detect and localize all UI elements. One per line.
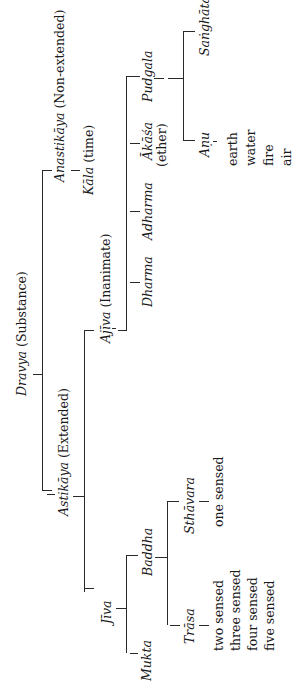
node-baddha: Baddha bbox=[141, 528, 155, 576]
anu-tick bbox=[183, 140, 195, 141]
anu-item-fire: fire bbox=[262, 144, 276, 166]
node-ajiva: Ajīva (Inanimate) bbox=[99, 234, 113, 343]
kala-tick bbox=[71, 170, 80, 171]
dravya-gloss: (Substance) bbox=[14, 271, 29, 351]
astikaya-out-stub bbox=[73, 496, 84, 497]
node-trasa: Trāsa bbox=[183, 608, 197, 644]
dravya-stub bbox=[33, 374, 42, 375]
jiva-tick bbox=[84, 588, 94, 589]
ajiva-tick bbox=[84, 330, 94, 331]
sthavara-tick bbox=[167, 501, 179, 502]
baddha-tick bbox=[126, 555, 138, 556]
anu-item-air: air bbox=[280, 149, 294, 166]
ajiva-gloss: (Inanimate) bbox=[98, 234, 113, 312]
node-pudgala: Pudgala bbox=[141, 51, 155, 102]
anastikaya-gloss: (Non-extended) bbox=[52, 10, 67, 113]
anu-item-water: water bbox=[244, 129, 258, 166]
anu-item-earth: earth bbox=[226, 132, 240, 166]
node-anastikaya: Anastikāya (Non-extended) bbox=[53, 10, 67, 182]
jiva-out-stub bbox=[116, 608, 126, 609]
dharma-tick bbox=[130, 282, 140, 283]
node-akasa-gloss: (ether) bbox=[155, 123, 169, 167]
trasa-item-two-sensed: two sensed bbox=[212, 580, 226, 651]
trasa-item-five-sensed: five sensed bbox=[263, 581, 277, 651]
anu-items-tick bbox=[213, 141, 217, 142]
ajiva-bracket bbox=[126, 76, 127, 331]
jiva-bracket bbox=[126, 555, 127, 653]
sthavara-item-one-sensed: one sensed bbox=[212, 456, 226, 527]
pudgala-out-stub bbox=[154, 78, 164, 79]
pudgala-out-stub-2 bbox=[168, 78, 183, 79]
dravya-term: Dravya bbox=[14, 351, 29, 396]
trasa-item-three-sensed: three sensed bbox=[229, 570, 243, 652]
astikaya-term: Astikāya bbox=[56, 462, 71, 516]
node-mukta: Mukta bbox=[140, 640, 154, 681]
node-dharma: Dharma bbox=[141, 256, 155, 307]
baddha-out-stub bbox=[155, 557, 167, 558]
node-sanghata: Saṅghāta bbox=[198, 0, 212, 56]
anastikaya-tick bbox=[42, 170, 52, 171]
sanghata-tick bbox=[183, 31, 195, 32]
trasa-items-tick bbox=[199, 625, 209, 626]
mukta-tick bbox=[130, 653, 138, 654]
node-anu: Aṇu bbox=[198, 132, 212, 157]
ajiva-term: Ajīva bbox=[98, 312, 113, 343]
node-akasa: Ākāśa bbox=[141, 122, 155, 160]
node-kala: Kāla (time) bbox=[82, 125, 96, 195]
kala-gloss: (time) bbox=[81, 125, 96, 167]
akasa-tick bbox=[130, 143, 140, 144]
adharma-tick bbox=[130, 211, 140, 212]
node-adharma: Adharma bbox=[141, 182, 155, 240]
node-sthavara: Sthāvara bbox=[183, 477, 197, 534]
sthavara-items-tick bbox=[199, 501, 209, 502]
trasa-tick bbox=[170, 625, 180, 626]
kala-term: Kāla bbox=[81, 167, 96, 195]
astikaya-gloss: (Extended) bbox=[56, 388, 71, 462]
pudgala-tick bbox=[126, 76, 140, 77]
node-astikaya: Astikāya (Extended) bbox=[57, 388, 71, 516]
astikaya-tick bbox=[42, 490, 52, 491]
ajiva-out-stub-2 bbox=[118, 330, 126, 331]
baddha-bracket bbox=[167, 501, 168, 625]
node-dravya: Dravya (Substance) bbox=[15, 271, 29, 396]
anastikaya-term: Anastikāya bbox=[52, 112, 67, 182]
node-jiva: Jīva bbox=[100, 600, 114, 624]
pudgala-bracket bbox=[183, 31, 184, 140]
trasa-item-four-sensed: four sensed bbox=[246, 577, 260, 651]
dravya-bracket bbox=[42, 170, 43, 490]
astikaya-bracket bbox=[84, 330, 85, 592]
astikaya-tick-2 bbox=[47, 494, 55, 495]
